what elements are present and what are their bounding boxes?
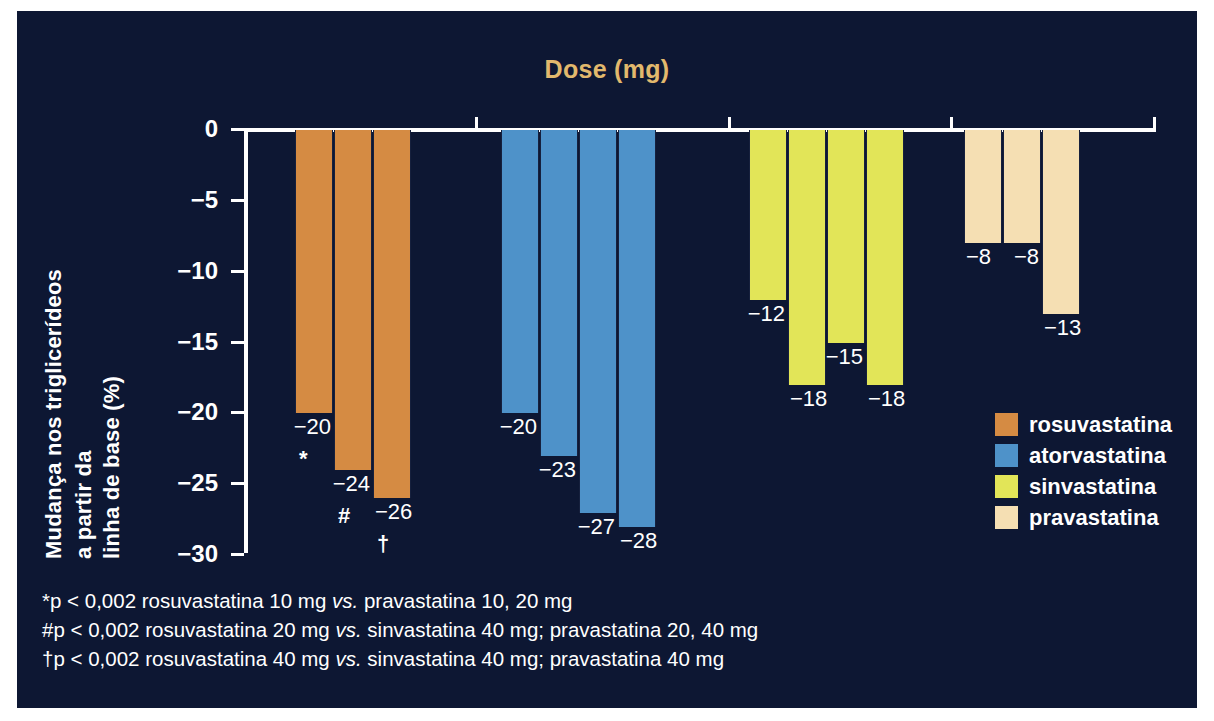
bar-value-label: −28 bbox=[620, 528, 657, 554]
footnote-2: #p < 0,002 rosuvastatina 20 mg vs. sinva… bbox=[42, 615, 758, 644]
group-separator-tick bbox=[728, 117, 731, 128]
legend-label: sinvastatina bbox=[1029, 474, 1156, 500]
y-axis-tick-label: −15 bbox=[177, 328, 218, 356]
bar-atorvastatina-80mg[interactable]: 80−28 bbox=[618, 130, 656, 527]
legend-swatch-icon bbox=[995, 413, 1018, 436]
legend-item-pravastatina[interactable]: pravastatina bbox=[995, 502, 1172, 533]
bar-fill bbox=[788, 130, 826, 385]
bar-fill bbox=[1003, 130, 1041, 243]
footnote-text: †p < 0,002 rosuvastatina 40 mg bbox=[42, 647, 335, 670]
y-axis-tick-label: −10 bbox=[177, 257, 218, 285]
bar-value-label: −20 bbox=[500, 414, 537, 440]
bar-value-label: −8 bbox=[966, 244, 991, 270]
bar-value-label: −26 bbox=[375, 499, 412, 525]
bar-value-label: −12 bbox=[748, 301, 785, 327]
bar-fill bbox=[295, 130, 333, 413]
legend-item-atorvastatina[interactable]: atorvastatina bbox=[995, 440, 1172, 471]
group-separator-tick bbox=[950, 117, 953, 128]
legend-swatch-icon bbox=[995, 475, 1018, 498]
legend-swatch-icon bbox=[995, 506, 1018, 529]
y-axis-tick: −25 bbox=[231, 482, 244, 485]
y-axis-tick: −15 bbox=[231, 341, 244, 344]
bar-value-label: −23 bbox=[539, 457, 576, 483]
y-axis-tick: −30 bbox=[231, 553, 244, 556]
bar-pravastatina-40mg[interactable]: 40−13 bbox=[1042, 130, 1080, 314]
bar-atorvastatina-10mg[interactable]: 10−20 bbox=[501, 130, 539, 413]
footnote-vs: vs. bbox=[335, 647, 361, 670]
footnote-text: pravastatina 10, 20 mg bbox=[358, 589, 572, 612]
footnote-3: †p < 0,002 rosuvastatina 40 mg vs. sinva… bbox=[42, 644, 758, 673]
footnote-text: sinvastatina 40 mg; pravastatina 40 mg bbox=[362, 647, 724, 670]
bar-value-label: −18 bbox=[790, 386, 827, 412]
bar-fill bbox=[540, 130, 578, 456]
y-axis-tick: −10 bbox=[231, 270, 244, 273]
bar-value-label: −8 bbox=[1014, 244, 1039, 270]
bar-fill bbox=[373, 130, 411, 498]
group-separator-tick bbox=[1153, 117, 1156, 128]
y-axis-tick-label: −5 bbox=[191, 186, 218, 214]
y-axis-title-line-3: linha de base (%) bbox=[99, 376, 125, 559]
y-axis-tick: −5 bbox=[231, 199, 244, 202]
y-axis-line bbox=[244, 128, 248, 553]
bar-sinvastatina-20mg[interactable]: 20−18 bbox=[788, 130, 826, 385]
group-separator-tick bbox=[475, 117, 478, 128]
legend: rosuvastatinaatorvastatinasinvastatinapr… bbox=[995, 409, 1172, 533]
bar-rosuvastatina-40mg[interactable]: 40−26† bbox=[373, 130, 411, 498]
legend-item-sinvastatina[interactable]: sinvastatina bbox=[995, 471, 1172, 502]
y-axis-title: Mudança nos triglicerídeos a partir da l… bbox=[35, 129, 155, 559]
footnotes: *p < 0,002 rosuvastatina 10 mg vs. prava… bbox=[42, 586, 758, 673]
bar-pravastatina-20mg[interactable]: 20−8 bbox=[1003, 130, 1041, 243]
significance-marker: * bbox=[299, 446, 308, 472]
bar-fill bbox=[1042, 130, 1080, 314]
footnote-1: *p < 0,002 rosuvastatina 10 mg vs. prava… bbox=[42, 586, 758, 615]
bar-fill bbox=[827, 130, 865, 343]
bar-value-label: −24 bbox=[333, 471, 370, 497]
legend-label: atorvastatina bbox=[1029, 443, 1166, 469]
bar-fill bbox=[501, 130, 539, 413]
bar-fill bbox=[964, 130, 1002, 243]
bar-fill bbox=[579, 130, 617, 513]
bar-value-label: −18 bbox=[868, 386, 905, 412]
bar-fill bbox=[749, 130, 787, 300]
footnote-text: sinvastatina 40 mg; pravastatina 20, 40 … bbox=[362, 618, 759, 641]
bar-sinvastatina-10mg[interactable]: 10−12 bbox=[749, 130, 787, 300]
y-axis-title-line-1: Mudança nos triglicerídeos bbox=[41, 269, 67, 559]
legend-item-rosuvastatina[interactable]: rosuvastatina bbox=[995, 409, 1172, 440]
y-axis-tick-label: 0 bbox=[205, 115, 218, 143]
y-axis-tick: −20 bbox=[231, 411, 244, 414]
y-axis-tick-label: −20 bbox=[177, 398, 218, 426]
bar-fill bbox=[618, 130, 656, 527]
legend-swatch-icon bbox=[995, 444, 1018, 467]
bar-atorvastatina-20mg[interactable]: 20−23 bbox=[540, 130, 578, 456]
bar-pravastatina-10mg[interactable]: 10−8 bbox=[964, 130, 1002, 243]
x-axis-title: Dose (mg) bbox=[17, 55, 1197, 84]
legend-label: pravastatina bbox=[1029, 505, 1159, 531]
y-axis-tick-label: −25 bbox=[177, 469, 218, 497]
y-axis-tick: 0 bbox=[231, 128, 244, 131]
bar-atorvastatina-40mg[interactable]: 40−27 bbox=[579, 130, 617, 513]
bar-sinvastatina-40mg[interactable]: 40−15 bbox=[827, 130, 865, 343]
footnote-vs: vs. bbox=[332, 589, 358, 612]
bar-value-label: −20 bbox=[294, 414, 331, 440]
bar-rosuvastatina-20mg[interactable]: 20−24# bbox=[334, 130, 372, 470]
bar-value-label: −27 bbox=[578, 514, 615, 540]
y-axis-tick-label: −30 bbox=[177, 540, 218, 568]
y-axis-title-line-2: a partir da bbox=[71, 450, 97, 559]
bar-fill bbox=[334, 130, 372, 470]
bar-sinvastatina-80mg[interactable]: 80−18 bbox=[866, 130, 904, 385]
footnote-vs: vs. bbox=[335, 618, 361, 641]
bar-rosuvastatina-10mg[interactable]: 10−20* bbox=[295, 130, 333, 413]
legend-label: rosuvastatina bbox=[1029, 412, 1172, 438]
bar-fill bbox=[866, 130, 904, 385]
chart-figure: Dose (mg) Mudança nos triglicerídeos a p… bbox=[17, 11, 1197, 708]
significance-marker: † bbox=[377, 531, 389, 557]
footnote-text: *p < 0,002 rosuvastatina 10 mg bbox=[42, 589, 332, 612]
bar-value-label: −15 bbox=[826, 344, 863, 370]
bar-value-label: −13 bbox=[1044, 315, 1081, 341]
significance-marker: # bbox=[338, 503, 350, 529]
footnote-text: #p < 0,002 rosuvastatina 20 mg bbox=[42, 618, 335, 641]
